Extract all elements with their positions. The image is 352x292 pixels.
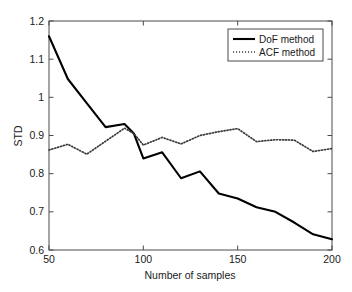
y-tick-label: 1.2 — [29, 15, 44, 27]
chart-legend[interactable]: DoF method ACF method — [228, 29, 323, 61]
y-tick-label: 0.8 — [29, 167, 44, 179]
y-axis-title: STD — [12, 125, 24, 146]
y-tick-label: 0.7 — [29, 205, 44, 217]
legend-label-acf-method: ACF method — [259, 47, 315, 58]
legend-label-dof-method: DoF method — [259, 34, 314, 45]
x-axis-title: Number of samples — [144, 269, 235, 281]
x-tick-label: 50 — [43, 253, 55, 265]
y-tick-label: 0.9 — [29, 129, 44, 141]
x-tick-label: 200 — [323, 253, 341, 265]
y-tick-label: 1 — [38, 91, 44, 103]
line-chart: 0.60.70.80.911.11.2 50100150200 STD Numb… — [0, 0, 352, 292]
x-tick-label: 100 — [135, 253, 153, 265]
y-axis-tick-labels: 0.60.70.80.911.11.2 — [29, 15, 44, 256]
figure-canvas: 0.60.70.80.911.11.2 50100150200 STD Numb… — [0, 0, 352, 292]
y-tick-label: 1.1 — [29, 53, 44, 65]
x-tick-label: 150 — [229, 253, 247, 265]
y-tick-label: 0.6 — [29, 244, 44, 256]
x-axis-tick-labels: 50100150200 — [43, 253, 341, 265]
